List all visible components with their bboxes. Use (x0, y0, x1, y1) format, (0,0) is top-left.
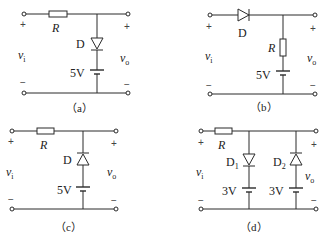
input-plus: + (206, 21, 212, 32)
diode-label: D (63, 153, 72, 167)
caption: （a） (66, 102, 93, 114)
circuit-b: + + − − D R 5V vi vo （b） (205, 9, 317, 113)
input-voltage-label: vi (205, 49, 213, 65)
output-voltage-label: vo (107, 165, 116, 181)
output-minus: − (124, 79, 130, 90)
input-minus: − (8, 194, 14, 205)
terminal-out-plus (314, 129, 318, 133)
output-voltage-label: vo (120, 51, 129, 67)
terminal-in-minus (22, 91, 26, 95)
circuit-c: + + − − R D 5V vi vo （c） (6, 128, 118, 233)
output-minus: − (310, 80, 316, 91)
terminal-out-minus (313, 92, 317, 96)
terminal-out-plus (114, 129, 118, 133)
diode-icon (238, 9, 249, 21)
terminal-out-plus (313, 13, 317, 17)
output-minus: − (111, 195, 117, 206)
resistor-label: R (51, 21, 60, 35)
terminal-out-minus (126, 91, 130, 95)
input-voltage-label: vi (18, 48, 26, 64)
circuit-diagrams: + + − − R D 5V vi vo （a） + + − − D R 5V … (0, 0, 323, 243)
diode-label: D (76, 37, 85, 51)
input-voltage-label: vi (6, 165, 14, 181)
input-plus: + (20, 19, 26, 30)
output-voltage-label: vo (305, 169, 314, 185)
diode1-icon (243, 154, 255, 165)
battery-label: 5V (70, 66, 85, 80)
diode2-icon (290, 154, 302, 165)
battery2-label: 3V (269, 184, 284, 198)
battery-label: 5V (256, 68, 271, 82)
terminal-in-minus (10, 207, 14, 211)
terminal-in-plus (10, 129, 14, 133)
terminal-in-plus (22, 12, 26, 16)
diode2-label: D2 (273, 155, 286, 171)
diode-icon (77, 154, 89, 165)
output-plus: + (311, 139, 317, 150)
circuit-d: + + − − R D1 D2 3V 3V vi vo （d） (196, 128, 318, 233)
resistor-icon (280, 39, 286, 56)
input-minus: − (20, 77, 26, 88)
terminal-in-minus (199, 207, 203, 211)
diode-label: D (238, 26, 247, 40)
resistor-label: R (267, 41, 276, 55)
input-plus: + (198, 137, 204, 148)
output-plus: + (111, 138, 117, 149)
output-minus: − (311, 195, 317, 206)
diode1-label: D1 (226, 155, 239, 171)
input-minus: − (198, 195, 204, 206)
terminal-out-minus (314, 207, 318, 211)
input-voltage-label: vi (196, 165, 204, 181)
diode-icon (91, 38, 103, 49)
terminal-in-minus (208, 92, 212, 96)
resistor-label: R (217, 138, 226, 152)
input-plus: + (8, 136, 14, 147)
output-voltage-label: vo (307, 51, 316, 67)
output-plus: + (310, 23, 316, 34)
output-plus: + (124, 21, 130, 32)
circuit-a: + + − − R D 5V vi vo （a） (18, 11, 130, 114)
resistor-icon (49, 11, 67, 17)
terminal-out-minus (114, 207, 118, 211)
resistor-icon (215, 128, 232, 134)
caption: （c） (55, 221, 82, 233)
caption: （b） (250, 101, 278, 113)
resistor-label: R (39, 138, 48, 152)
terminal-out-plus (126, 12, 130, 16)
input-minus: − (206, 80, 212, 91)
battery1-label: 3V (222, 184, 237, 198)
battery-label: 5V (57, 183, 72, 197)
terminal-in-plus (208, 13, 212, 17)
resistor-icon (37, 128, 54, 134)
terminal-in-plus (199, 129, 203, 133)
caption: （d） (240, 221, 268, 233)
